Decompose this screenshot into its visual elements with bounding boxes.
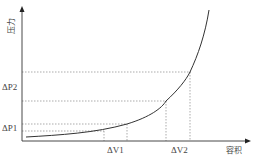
pressure-volume-diagram: 压力 ΔP2 ΔP1 ΔV1 ΔV2 容积 (0, 0, 253, 159)
x-tick-dv1: ΔV1 (107, 145, 124, 155)
y-tick-dp1: ΔP1 (2, 123, 17, 133)
y-axis-label: 压力 (6, 18, 16, 34)
x-axis-label: 容积 (226, 145, 242, 155)
pressure-volume-curve (26, 10, 209, 137)
y-tick-dp2: ΔP2 (2, 82, 17, 92)
guide-lines (22, 72, 191, 141)
x-axis-arrow-icon (245, 139, 251, 144)
x-tick-dv2: ΔV2 (171, 145, 188, 155)
y-axis-arrow-icon (20, 6, 25, 12)
